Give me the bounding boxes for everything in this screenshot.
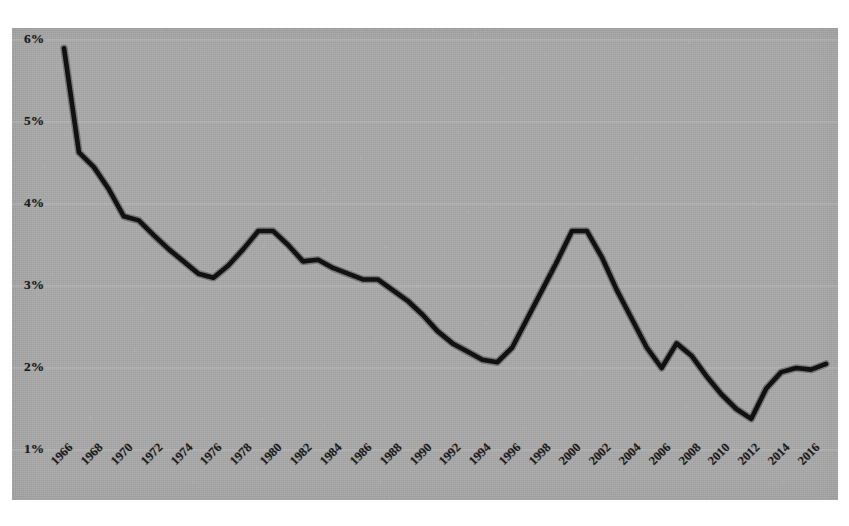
scan-speck bbox=[429, 155, 430, 156]
scan-speck bbox=[574, 158, 577, 161]
scan-speck bbox=[720, 458, 722, 460]
scan-speck bbox=[803, 131, 805, 133]
x-axis-tick-label: 2010 bbox=[705, 440, 733, 468]
x-axis-tick-label: 1970 bbox=[108, 440, 136, 468]
scan-speck bbox=[574, 206, 576, 208]
scan-speck bbox=[249, 425, 251, 427]
scan-speck bbox=[68, 183, 70, 185]
scan-speck bbox=[519, 310, 520, 311]
scan-speck bbox=[811, 99, 813, 101]
scan-speck bbox=[127, 478, 129, 480]
x-axis-tick-labels: 1966196819701972197419761978198019821984… bbox=[0, 0, 849, 526]
scan-speck bbox=[616, 211, 617, 212]
x-axis-tick-label: 1998 bbox=[526, 440, 554, 468]
scan-speck bbox=[333, 112, 334, 113]
x-axis-tick-label: 1982 bbox=[287, 440, 315, 468]
scan-speck bbox=[379, 480, 382, 483]
scan-speck bbox=[480, 104, 481, 105]
scan-speck bbox=[452, 363, 454, 365]
scan-speck bbox=[538, 205, 539, 206]
scan-speck bbox=[89, 416, 92, 419]
scan-speck bbox=[566, 210, 568, 212]
scan-speck bbox=[260, 176, 262, 178]
scan-speck bbox=[384, 246, 386, 248]
scan-speck bbox=[100, 320, 101, 321]
scan-speck bbox=[587, 301, 589, 303]
scan-speck bbox=[193, 392, 195, 394]
x-axis-tick-label: 1984 bbox=[317, 440, 345, 468]
scan-speck bbox=[835, 325, 836, 326]
scan-speck bbox=[552, 384, 554, 386]
x-axis-tick-label: 1986 bbox=[347, 440, 375, 468]
scan-speck bbox=[415, 357, 417, 359]
scan-speck bbox=[363, 140, 366, 143]
scan-speck bbox=[466, 211, 468, 213]
scan-speck bbox=[739, 340, 741, 342]
scan-speck bbox=[17, 310, 19, 312]
scan-speck bbox=[526, 69, 529, 72]
scan-speck bbox=[297, 443, 298, 444]
scan-speck bbox=[311, 492, 313, 494]
scan-speck bbox=[191, 219, 193, 221]
scan-speck bbox=[191, 481, 193, 483]
scan-speck bbox=[613, 487, 615, 489]
scan-speck bbox=[255, 467, 257, 469]
scan-speck bbox=[115, 373, 116, 374]
scan-speck bbox=[150, 193, 151, 194]
scan-speck bbox=[812, 102, 813, 103]
scan-speck bbox=[134, 349, 136, 351]
scan-speck bbox=[405, 124, 406, 125]
scan-speck bbox=[211, 306, 213, 308]
scan-speck bbox=[428, 247, 429, 248]
scan-speck bbox=[667, 268, 668, 269]
scan-speck bbox=[474, 32, 476, 34]
x-axis-tick-label: 2006 bbox=[646, 440, 674, 468]
scan-speck bbox=[467, 288, 468, 289]
scan-speck bbox=[669, 419, 671, 421]
scan-speck bbox=[699, 341, 701, 343]
x-axis-tick-label: 2002 bbox=[586, 440, 614, 468]
x-axis-tick-label: 1976 bbox=[197, 440, 225, 468]
scan-speck bbox=[653, 66, 655, 68]
scan-speck bbox=[200, 67, 202, 69]
scan-speck bbox=[552, 262, 554, 264]
scan-speck bbox=[106, 93, 108, 95]
scan-speck bbox=[815, 363, 816, 364]
scan-speck bbox=[108, 288, 110, 290]
scan-speck bbox=[726, 345, 728, 347]
x-axis-tick-label: 1966 bbox=[48, 440, 76, 468]
scan-speck bbox=[788, 103, 789, 104]
x-axis-tick-label: 1990 bbox=[407, 440, 435, 468]
scan-speck bbox=[437, 155, 440, 158]
scan-speck bbox=[333, 193, 336, 196]
scan-speck bbox=[116, 408, 117, 409]
scan-speck bbox=[549, 270, 552, 273]
scan-speck bbox=[261, 418, 264, 421]
scan-speck bbox=[306, 274, 307, 275]
scan-speck bbox=[522, 427, 525, 430]
scan-speck bbox=[144, 254, 146, 256]
scan-speck bbox=[574, 476, 575, 477]
scan-speck bbox=[501, 78, 503, 80]
scan-speck bbox=[331, 47, 334, 50]
scan-speck bbox=[190, 402, 193, 405]
scan-speck bbox=[458, 300, 460, 302]
scan-speck bbox=[579, 451, 581, 453]
x-axis-tick-label: 1968 bbox=[78, 440, 106, 468]
scan-speck bbox=[199, 99, 201, 101]
scan-speck bbox=[95, 455, 97, 457]
scan-speck bbox=[41, 450, 44, 453]
scan-speck bbox=[571, 275, 573, 277]
x-axis-tick-label: 2012 bbox=[735, 440, 763, 468]
scan-speck bbox=[650, 471, 652, 473]
scan-speck bbox=[56, 159, 57, 160]
x-axis-tick-label: 2016 bbox=[795, 440, 823, 468]
scan-speck bbox=[684, 304, 686, 306]
x-axis-tick-label: 1988 bbox=[377, 440, 405, 468]
x-axis-tick-label: 2000 bbox=[556, 440, 584, 468]
scan-speck bbox=[81, 279, 82, 280]
scan-speck bbox=[409, 337, 410, 338]
scan-speck bbox=[685, 423, 687, 425]
x-axis-tick-label: 2014 bbox=[765, 440, 793, 468]
scan-speck bbox=[614, 107, 616, 109]
